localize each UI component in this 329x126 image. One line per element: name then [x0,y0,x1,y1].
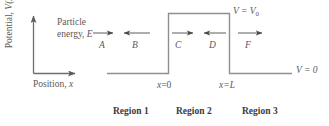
potential-barrier-figure: Potential, V(x) Position, x Particle ene… [0,0,329,126]
particle-energy-line1: Particle [57,17,86,27]
y-axis-label-var: V(x) [4,0,14,10]
barrier-height-v: V = [233,6,250,16]
x-length-label: x=L [219,81,235,91]
region-label-3: Region 3 [242,107,278,117]
arrow-label-c: C [175,41,181,51]
x-axis-label-var: x [69,79,73,89]
arrow-label-a: A [99,41,105,51]
particle-energy-line2: energy, [57,29,87,39]
x-origin-value: =0 [161,80,171,90]
y-axis-label: Potential, V(x) [5,0,15,53]
barrier-height-subscript: 0 [256,10,260,18]
region-label-2: Region 2 [176,107,212,117]
x-axis-label: Position, x [33,80,73,90]
baseline-potential-label: V = 0 [296,66,318,76]
arrow-label-f: F [245,41,251,51]
particle-energy-label: Particle energy, E [57,16,93,40]
region-label-1: Region 1 [113,107,149,117]
barrier-height-label: V = V0 [233,7,259,18]
x-origin-label: x=0 [157,81,171,91]
arrow-label-b: B [132,41,138,51]
arrow-label-d: D [209,41,216,51]
diagram-canvas [0,0,329,126]
particle-energy-symbol: E [87,29,93,39]
x-length-value: =L [223,80,235,90]
